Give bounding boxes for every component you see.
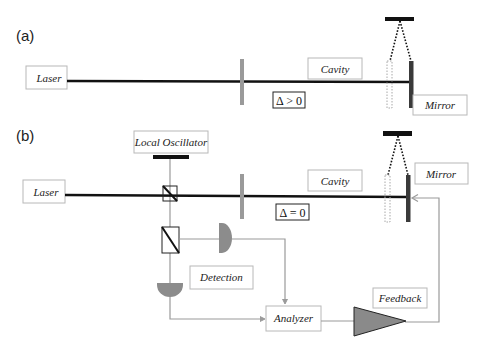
ghost-mirror-a (387, 61, 392, 108)
analyzer-top-arrowhead (283, 299, 288, 304)
input-mirror-a (240, 59, 244, 105)
cavity-label-b: Cavity (321, 175, 350, 187)
laser-beam-b (65, 195, 408, 197)
detuning-label-b: Δ = 0 (280, 206, 306, 220)
mirror-support-b (383, 131, 412, 136)
detection-label: Detection (199, 271, 243, 283)
mirror-box-a: Mirror (413, 95, 467, 115)
input-mirror-b (240, 174, 244, 219)
cavity-box-a: Cavity (308, 58, 362, 79)
feedback-amplifier (354, 307, 406, 336)
analyzer-label: Analyzer (273, 312, 314, 324)
suspension-line-right-b (398, 136, 408, 175)
laser-label-b: Laser (32, 186, 59, 198)
local-oscillator-box: Local Oscillator (134, 131, 208, 153)
laser-label-a: Laser (35, 72, 62, 84)
ghost-mirror-b (385, 175, 390, 222)
detection-box: Detection (190, 266, 253, 289)
panel-a: (a) Laser Cavity Δ > 0 (16, 17, 467, 115)
local-oscillator-bar (153, 155, 189, 159)
panel-b: (b) Local Oscillator Laser Cavity (16, 127, 468, 336)
cavity-box-b: Cavity (308, 170, 362, 191)
detuning-box-b: Δ = 0 (276, 204, 309, 220)
laser-beam-a (67, 81, 410, 82)
mirror-label-a: Mirror (424, 99, 456, 111)
suspension-line-right-a (400, 21, 411, 61)
mirror-label-b: Mirror (425, 168, 457, 180)
panel-b-label: (b) (16, 127, 34, 144)
panel-a-label: (a) (16, 27, 34, 44)
local-oscillator-label: Local Oscillator (134, 136, 208, 148)
photodetector-right (219, 223, 232, 253)
suspension-line-left-a (390, 21, 400, 61)
movable-mirror-b (406, 175, 411, 222)
photodetector-bottom (157, 283, 183, 297)
detuning-label-a: Δ > 0 (276, 94, 302, 108)
mirror-box-b: Mirror (415, 163, 468, 184)
laser-box-a: Laser (26, 66, 67, 89)
optomechanics-diagram: (a) Laser Cavity Δ > 0 (0, 0, 481, 353)
suspension-line-left-b (388, 136, 398, 175)
analyzer-left-arrowhead (260, 317, 265, 322)
mirror-support-a (385, 17, 414, 21)
beamsplitter-2 (162, 227, 179, 253)
analyzer-box: Analyzer (266, 306, 321, 331)
detuning-box-a: Δ > 0 (273, 92, 305, 108)
detector-bottom-to-analyzer-line (170, 297, 264, 319)
cavity-label-a: Cavity (321, 63, 350, 75)
beamsplitter-1 (163, 186, 177, 201)
feedback-label: Feedback (378, 292, 423, 304)
feedback-box: Feedback (373, 288, 427, 308)
laser-box-b: Laser (23, 180, 65, 203)
